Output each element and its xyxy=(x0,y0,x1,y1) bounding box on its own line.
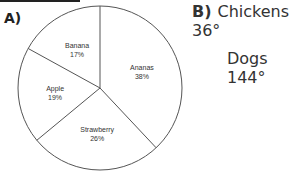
slice-percent-apple: 19% xyxy=(48,94,62,101)
slice-label-ananas: Ananas xyxy=(130,64,154,71)
slice-percent-banana: 17% xyxy=(70,51,84,58)
slice-label-banana: Banana xyxy=(65,42,89,49)
slice-percent-ananas: 38% xyxy=(135,73,149,80)
part-b-line-1: B)Chickens 36° xyxy=(192,2,303,40)
slice-percent-strawberry: 26% xyxy=(90,135,104,142)
dogs-text: Dogs 144° xyxy=(227,49,303,87)
slice-label-apple: Apple xyxy=(46,85,64,93)
part-b-label: B) xyxy=(192,2,212,21)
slice-label-strawberry: Strawberry xyxy=(80,126,114,134)
